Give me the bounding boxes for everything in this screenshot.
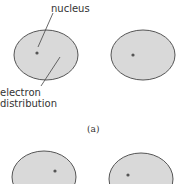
electron-distribution-label-line2: distribution	[0, 98, 57, 109]
nucleus-dot	[53, 169, 56, 172]
nucleus-label: nucleus	[51, 3, 90, 14]
atom-bottom-right	[109, 153, 173, 184]
nucleus-dot	[35, 51, 38, 54]
atom-top-right	[111, 30, 175, 80]
panel-a-label: (a)	[87, 124, 99, 135]
electron-distribution-label-line1: electron	[0, 87, 41, 98]
nucleus-dot	[126, 173, 129, 176]
atom-top-left	[14, 30, 78, 80]
atom-bottom-left	[12, 151, 76, 184]
nucleus-dot	[131, 53, 134, 56]
